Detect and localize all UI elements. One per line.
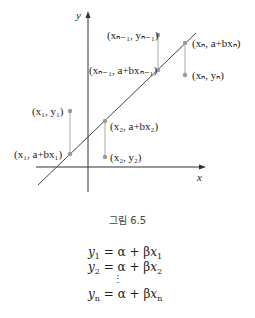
- equation-1: y1 = α + βx1: [88, 245, 162, 260]
- point-2-observed: [103, 155, 107, 159]
- eqn-x-sub: n: [157, 294, 162, 303]
- y-axis-arrow-icon: [86, 11, 91, 18]
- equation-2: y2 = α + βx2: [88, 260, 162, 275]
- label-p2-observed: (x₂, y₂): [110, 151, 142, 164]
- label-pn-1-observed: (xₙ₋₁, yₙ₋₁): [107, 29, 159, 42]
- label-pn-observed: (xₙ, yₙ): [192, 69, 224, 82]
- point-2-fitted: [103, 119, 107, 123]
- x-axis-label: x: [196, 171, 202, 183]
- eq1-lhs: y: [88, 245, 95, 259]
- eqn-lhs-sub: n: [95, 294, 100, 303]
- point-1-fitted: [68, 152, 72, 156]
- eq2-x-sub: 2: [157, 267, 162, 276]
- eq2-lhs-sub: 2: [95, 267, 100, 276]
- x-axis-arrow-icon: [199, 165, 206, 170]
- equation-n: yn = α + βxn: [88, 287, 162, 302]
- regression-diagram: y x (x₁, y₁) (x₁, a+bx₁) (x₂, a+bx₂) (x₂…: [0, 0, 255, 205]
- eq1-rhs: α + β: [118, 245, 151, 259]
- y-axis-label: y: [75, 9, 81, 21]
- equation-block: y1 = α + βx1 y2 = α + βx2 ⋮ yn = α + βxn: [88, 245, 162, 302]
- label-pn-1-fitted: (xₙ₋₁, a+bxₙ₋₁): [89, 64, 157, 77]
- label-pn-fitted: (xₙ, a+bxₙ): [192, 37, 241, 50]
- label-p1-observed: (x₁, y₁): [32, 105, 64, 118]
- label-p2-fitted: (x₂, a+bx₂): [110, 120, 158, 133]
- label-p1-fitted: (x₁, a+bx₁): [14, 148, 62, 161]
- point-1-observed: [68, 109, 72, 113]
- eqn-rhs: α + β: [118, 287, 151, 301]
- figure-caption: 그림 6.5: [0, 212, 255, 227]
- point-n-fitted: [183, 41, 187, 45]
- eq2-rhs: α + β: [118, 260, 151, 274]
- eqn-lhs: y: [88, 287, 95, 301]
- point-n-observed: [183, 73, 187, 77]
- eq2-lhs: y: [88, 260, 95, 274]
- vertical-dots: ⋮: [88, 275, 148, 287]
